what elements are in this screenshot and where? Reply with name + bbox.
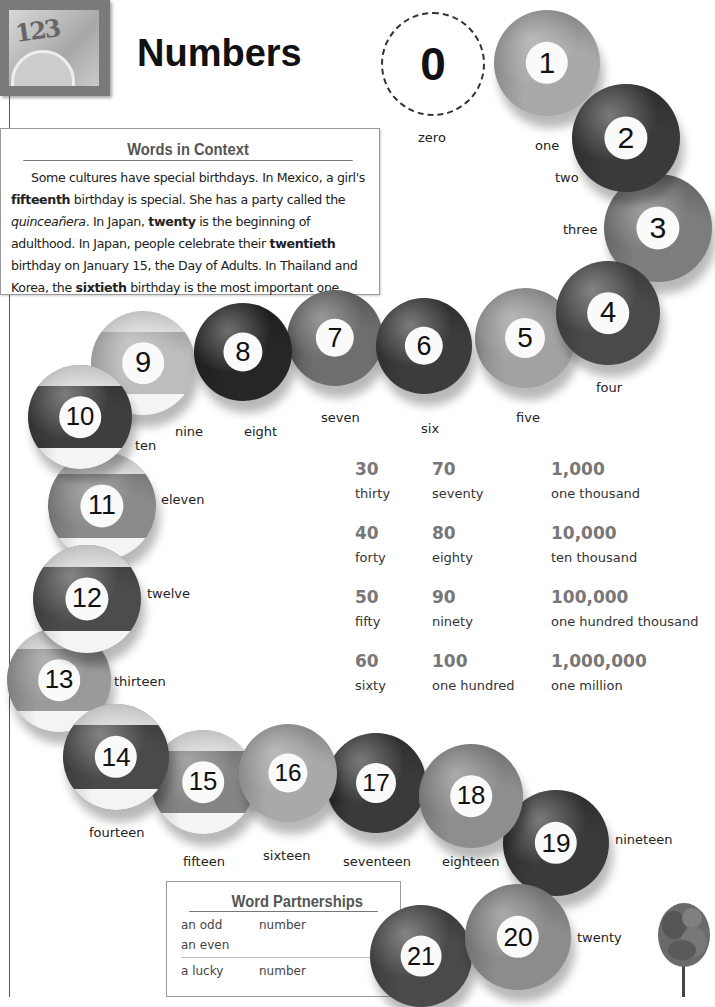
table-number-word: eighty: [432, 550, 473, 565]
billiard-ball-16: 16: [239, 724, 337, 822]
billiard-ball-21: 21: [370, 905, 472, 1007]
context-text-segment: birthday is special. She has a party cal…: [70, 192, 345, 207]
number-word-label: fourteen: [89, 825, 144, 840]
table-number-word: sixty: [355, 678, 386, 693]
number-word-label: seventeen: [343, 854, 411, 869]
table-numeral: 1,000,000: [551, 651, 647, 671]
partnership-right: number: [259, 918, 306, 932]
ball-number: 15: [182, 761, 224, 803]
numbers-thumbnail: 123: [0, 0, 110, 96]
billiard-ball-8: 8: [194, 303, 292, 401]
ball-number: 21: [401, 936, 442, 977]
billiard-ball-18: 18: [419, 744, 523, 848]
highlighted-word: fifteenth: [11, 192, 70, 207]
highlighted-word: twenty: [148, 214, 195, 229]
table-numeral: 80: [432, 523, 456, 543]
billiard-ball-6: 6: [376, 298, 472, 394]
table-numeral: 40: [355, 523, 379, 543]
partnership-left: a lucky: [181, 964, 223, 978]
table-number-word: ten thousand: [551, 550, 637, 565]
billiard-ball-4: 4: [556, 261, 660, 365]
context-text-segment: Some cultures have special birthdays. In…: [31, 170, 365, 185]
zero-circle: 0: [381, 12, 485, 116]
number-word-label: thirteen: [114, 674, 166, 689]
highlighted-word: sixtieth: [76, 280, 127, 295]
table-number-word: one thousand: [551, 486, 640, 501]
partnership-left: an odd: [181, 918, 222, 932]
words-in-context-title: Words in Context: [23, 141, 352, 161]
table-number-word: one million: [551, 678, 623, 693]
pocket-watch-icon: [11, 50, 75, 86]
table-number-word: fifty: [355, 614, 380, 629]
table-numeral: 100: [432, 651, 468, 671]
zero-label: zero: [418, 130, 446, 145]
ball-number: 18: [450, 775, 492, 817]
context-text-segment: . In Japan,: [86, 214, 149, 229]
number-word-label: five: [516, 410, 540, 425]
table-numeral: 50: [355, 587, 379, 607]
number-word-label: eighteen: [442, 854, 499, 869]
ball-number: 10: [59, 396, 101, 438]
word-partnerships-box: Word Partnerships an odd number an even …: [166, 881, 401, 997]
number-word-label: twenty: [577, 930, 622, 945]
table-numeral: 70: [432, 459, 456, 479]
table-number-word: one hundred thousand: [551, 614, 699, 629]
table-numeral: 10,000: [551, 523, 617, 543]
zero-numeral: 0: [420, 37, 446, 91]
word-partnerships-title: Word Partnerships: [189, 893, 378, 912]
number-word-label: twelve: [147, 586, 190, 601]
table-numeral: 100,000: [551, 587, 628, 607]
table-number-word: seventy: [432, 486, 484, 501]
billiard-ball-7: 7: [287, 290, 383, 386]
billiard-ball-2: 2: [572, 84, 680, 192]
table-number-word: one hundred: [432, 678, 515, 693]
billiard-ball-12: 12: [33, 545, 141, 653]
words-in-context-box: Words in Context Some cultures have spec…: [0, 128, 380, 295]
page-title: Numbers: [137, 32, 302, 75]
table-number-word: thirty: [355, 486, 390, 501]
number-word-label: sixteen: [263, 848, 310, 863]
table-numeral: 90: [432, 587, 456, 607]
billiard-ball-17: 17: [326, 733, 426, 833]
partnership-divider: [181, 957, 386, 958]
table-numeral: 60: [355, 651, 379, 671]
table-number-word: ninety: [432, 614, 473, 629]
partnership-right: number: [259, 964, 306, 978]
ball-number: 4: [587, 292, 629, 334]
number-word-label: six: [421, 421, 439, 436]
number-word-label: nine: [175, 424, 203, 439]
thumbnail-digits: 123: [13, 13, 61, 48]
ball-number: 17: [356, 763, 396, 803]
clock-photo-icon: 123: [9, 10, 99, 86]
billiard-ball-20: 20: [465, 884, 571, 990]
table-number-word: forty: [355, 550, 386, 565]
number-word-label: one: [535, 138, 559, 153]
number-word-label: eight: [244, 424, 277, 439]
ball-number: 5: [505, 318, 545, 358]
context-text-segment: quinceañera: [11, 214, 86, 229]
table-numeral: 1,000: [551, 459, 605, 479]
ball-number: 13: [38, 659, 80, 701]
billiard-ball-14: 14: [63, 704, 169, 810]
table-numeral: 30: [355, 459, 379, 479]
number-word-label: seven: [321, 410, 360, 425]
number-word-label: ten: [135, 438, 156, 453]
number-word-label: three: [563, 222, 597, 237]
context-text-segment: birthday is the most important one.: [127, 280, 343, 295]
number-word-label: nineteen: [615, 832, 672, 847]
number-word-label: two: [555, 170, 579, 185]
words-in-context-text: Some cultures have special birthdays. In…: [11, 167, 371, 299]
billiard-ball-1: 1: [494, 10, 600, 116]
highlighted-word: twentieth: [270, 236, 336, 251]
number-word-label: eleven: [161, 492, 205, 507]
tree-icon: [652, 890, 714, 997]
billiard-ball-10: 10: [28, 365, 132, 469]
number-word-label: fifteen: [183, 854, 225, 869]
number-word-label: four: [596, 380, 622, 395]
partnership-left: an even: [181, 938, 229, 952]
